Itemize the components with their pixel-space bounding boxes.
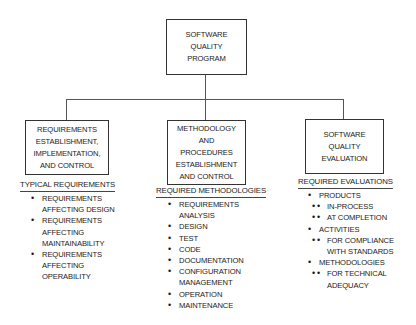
box-line: METHODOLOGY xyxy=(177,123,236,135)
list-item: REQUIREMENTS xyxy=(29,215,115,226)
list-item-continuation: AFFECTING xyxy=(29,227,115,238)
list-item-continuation: MAINTAINABILITY xyxy=(29,238,115,249)
list-item: DOCUMENTATION xyxy=(166,255,244,266)
box-line: ESTABLISHMENT xyxy=(176,159,237,171)
box-line: SOFTWARE xyxy=(324,129,366,141)
sub-list-item: IN-PROCESS xyxy=(306,201,394,212)
list-item: MAINTENANCE xyxy=(166,300,244,311)
box-line: EVALUATION xyxy=(322,153,368,165)
root-connector-vertical xyxy=(205,74,206,120)
list-item: REQUIREMENTS xyxy=(29,193,115,204)
node-methodology-procedures: METHODOLOGY AND PROCEDURES ESTABLISHMENT… xyxy=(167,120,246,185)
box-line: REQUIREMENTS xyxy=(37,124,97,136)
typical-requirements-list: REQUIREMENTS AFFECTING DESIGN REQUIREMEN… xyxy=(29,193,115,283)
list-item: PRODUCTS xyxy=(306,190,394,201)
list-item-continuation: ANALYSIS xyxy=(166,210,244,221)
node-requirements-establishment: REQUIREMENTS ESTABLISHMENT, IMPLEMENTATI… xyxy=(25,120,109,175)
list-item-continuation: AFFECTING DESIGN xyxy=(29,204,115,215)
root-line: SOFTWARE xyxy=(186,29,228,41)
list-item: DESIGN xyxy=(166,221,244,232)
box-line: AND xyxy=(199,135,215,147)
required-evaluations-list: PRODUCTS IN-PROCESS AT COMPLETION ACTIVI… xyxy=(306,190,394,291)
list-item: TEST xyxy=(166,233,244,244)
sub-list-item: FOR COMPLIANCE xyxy=(306,235,394,246)
required-methodologies-list: REQUIREMENTS ANALYSIS DESIGN TEST CODE D… xyxy=(166,199,244,311)
list-item: OPERATION xyxy=(166,289,244,300)
section-header-typical-requirements: TYPICAL REQUIREMENTS xyxy=(20,180,115,192)
list-item: REQUIREMENTS xyxy=(29,249,115,260)
root-line: QUALITY xyxy=(191,41,223,53)
list-item: ACTIVITIES xyxy=(306,224,394,235)
list-item: CODE xyxy=(166,244,244,255)
box-line: QUALITY xyxy=(329,141,361,153)
list-item-continuation: MANAGEMENT xyxy=(166,277,244,288)
node-software-quality-evaluation: SOFTWARE QUALITY EVALUATION xyxy=(305,119,384,174)
sub-list-item-continuation: ADEQUACY xyxy=(306,280,394,291)
branch-connector-horizontal xyxy=(66,99,344,100)
sub-list-item: FOR TECHNICAL xyxy=(306,268,394,279)
root-node-software-quality-program: SOFTWARE QUALITY PROGRAM xyxy=(166,19,247,75)
box-line: PROCEDURES xyxy=(180,147,233,159)
right-branch-connector xyxy=(343,99,344,119)
box-line: ESTABLISHMENT, xyxy=(36,136,99,148)
root-line: PROGRAM xyxy=(187,53,226,65)
section-header-required-methodologies: REQUIRED METHODOLOGIES xyxy=(156,186,266,198)
section-header-required-evaluations: REQUIRED EVALUATIONS xyxy=(298,177,393,189)
list-item-continuation: AFFECTING xyxy=(29,260,115,271)
sub-list-item-continuation: WITH STANDARDS xyxy=(306,246,394,257)
list-item: METHODOLOGIES xyxy=(306,257,394,268)
list-item-continuation: OPERABILITY xyxy=(29,271,115,282)
list-item: CONFIGURATION xyxy=(166,266,244,277)
list-item: REQUIREMENTS xyxy=(166,199,244,210)
left-branch-connector xyxy=(66,99,67,120)
box-line: AND CONTROL xyxy=(40,160,94,172)
box-line: AND CONTROL xyxy=(179,171,233,183)
sub-list-item: AT COMPLETION xyxy=(306,212,394,223)
box-line: IMPLEMENTATION, xyxy=(34,148,101,160)
